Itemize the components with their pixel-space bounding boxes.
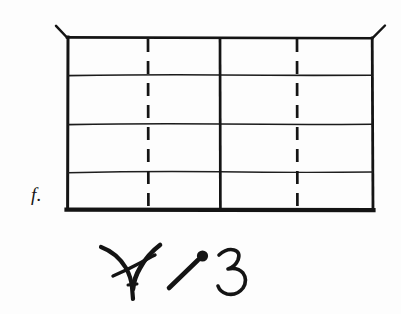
top-right-tick-icon [372,26,385,39]
numeral-three-glyph-icon [218,250,246,295]
frame-border-bottom [67,210,374,211]
handwritten-annotation-group [101,245,246,299]
frame-border-top [67,37,372,38]
figure-drawing [0,0,401,314]
top-left-tick-icon [56,26,68,38]
page-canvas: f. [0,0,401,314]
y-glyph-icon [101,245,160,299]
figure-label: f. [31,185,42,204]
stroke-with-dot-glyph-icon [169,250,208,288]
